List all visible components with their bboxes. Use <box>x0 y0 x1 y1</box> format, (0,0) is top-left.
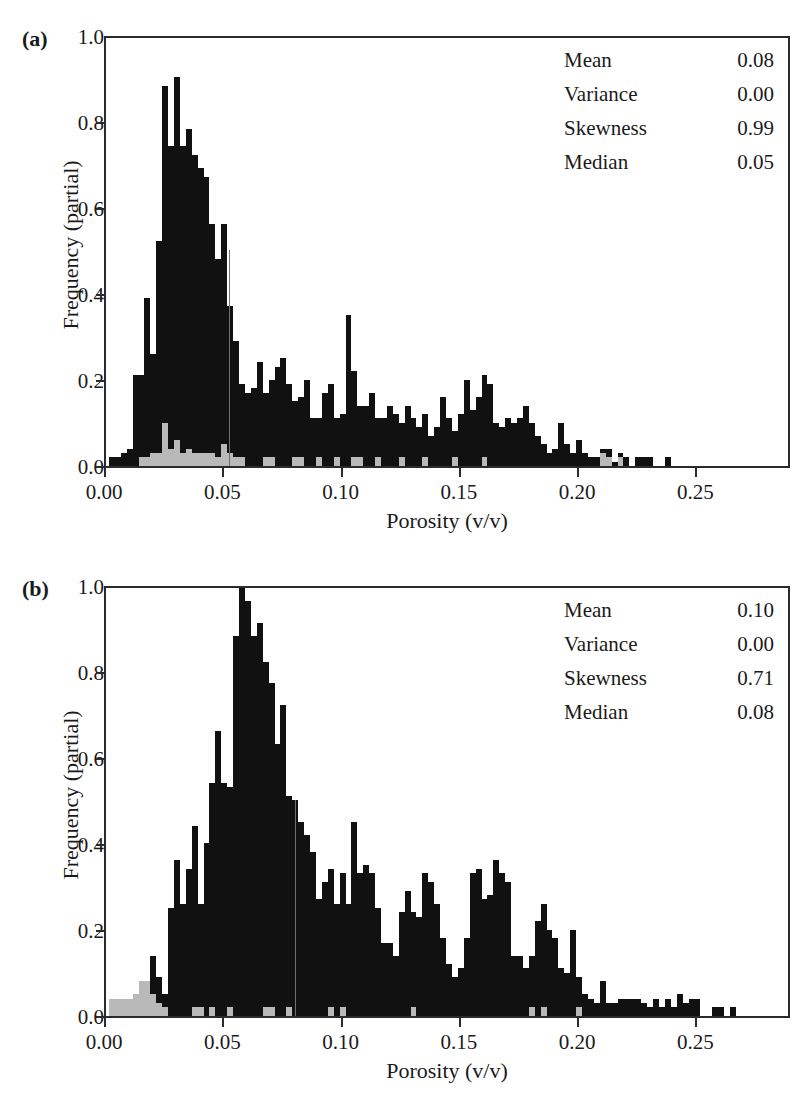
stats-label-variance: Variance <box>564 82 696 107</box>
histogram-bar <box>227 1007 233 1016</box>
x-tick-mark <box>577 1018 579 1027</box>
x-tick-mark <box>577 468 579 477</box>
histogram-bar <box>269 457 275 466</box>
y-tick-mark <box>96 208 104 210</box>
stats-row-mean: Mean 0.08 <box>564 48 774 82</box>
histogram-bar <box>647 457 653 466</box>
y-tick-mark <box>96 1016 104 1018</box>
panel-b-y-axis-title: Frequency (partial) <box>58 585 84 1005</box>
panel-a-y-axis-title: Frequency (partial) <box>58 35 84 455</box>
x-tick-label: 0.00 <box>64 1030 144 1055</box>
stats-row-median: Median 0.08 <box>564 700 774 734</box>
x-tick-label: 0.05 <box>182 1030 262 1055</box>
stats-value-mean: 0.10 <box>696 598 774 623</box>
panel-b-x-axis-title: Porosity (v/v) <box>104 1058 790 1084</box>
histogram-bar <box>618 457 624 466</box>
y-tick-mark <box>96 844 104 846</box>
stats-row-skewness: Skewness 0.71 <box>564 666 774 700</box>
x-tick-mark <box>104 1018 106 1027</box>
histogram-bar <box>334 457 340 466</box>
stats-label-skewness: Skewness <box>564 666 696 691</box>
stats-value-median: 0.05 <box>696 150 774 175</box>
x-tick-mark <box>341 468 343 477</box>
y-tick-mark <box>96 758 104 760</box>
panel-b: (b) 1.0 0.8 0.6 0.4 0.2 0.0 0.000.050.10… <box>0 550 812 1090</box>
histogram-bar <box>606 457 612 466</box>
x-tick-label: 0.25 <box>655 480 735 505</box>
stats-row-skewness: Skewness 0.99 <box>564 116 774 150</box>
stats-value-variance: 0.00 <box>696 632 774 657</box>
median-marker-line <box>295 800 296 1016</box>
histogram-bar <box>730 1007 736 1016</box>
stats-label-variance: Variance <box>564 632 696 657</box>
median-marker-line <box>229 250 230 466</box>
panel-b-stats-box: Mean 0.10 Variance 0.00 Skewness 0.71 Me… <box>564 598 774 734</box>
histogram-bar <box>316 457 322 466</box>
histogram-bar <box>482 457 488 466</box>
x-tick-mark <box>104 468 106 477</box>
x-tick-mark <box>222 468 224 477</box>
x-tick-mark <box>459 468 461 477</box>
stats-label-median: Median <box>564 150 696 175</box>
x-tick-label: 0.25 <box>655 1030 735 1055</box>
panel-a: (a) 1.0 0.8 0.6 0.4 0.2 0.0 0.000.050.10… <box>0 0 812 540</box>
x-tick-label: 0.20 <box>537 480 617 505</box>
x-tick-mark <box>341 1018 343 1027</box>
x-tick-label: 0.05 <box>182 480 262 505</box>
stats-value-variance: 0.00 <box>696 82 774 107</box>
panel-a-stats-box: Mean 0.08 Variance 0.00 Skewness 0.99 Me… <box>564 48 774 184</box>
histogram-bar <box>665 457 671 466</box>
stats-label-skewness: Skewness <box>564 116 696 141</box>
histogram-bar <box>357 457 363 466</box>
histogram-bar <box>399 457 405 466</box>
x-tick-label: 0.15 <box>419 1030 499 1055</box>
stats-value-skewness: 0.71 <box>696 666 774 691</box>
histogram-bar <box>162 1007 168 1016</box>
y-tick-mark <box>96 122 104 124</box>
histogram-bar <box>529 1007 535 1016</box>
x-tick-label: 0.00 <box>64 480 144 505</box>
stats-row-variance: Variance 0.00 <box>564 632 774 666</box>
histogram-bar <box>422 457 428 466</box>
y-tick-mark <box>96 294 104 296</box>
stats-row-variance: Variance 0.00 <box>564 82 774 116</box>
stats-label-median: Median <box>564 700 696 725</box>
y-tick-mark <box>96 930 104 932</box>
histogram-bar <box>452 457 458 466</box>
histogram-bar <box>576 1007 582 1016</box>
panel-a-y-axis: 1.0 0.8 0.6 0.4 0.2 0.0 <box>0 0 104 540</box>
histogram-bar <box>269 1007 275 1016</box>
panel-b-y-axis: 1.0 0.8 0.6 0.4 0.2 0.0 <box>0 550 104 1090</box>
histogram-bar <box>375 457 381 466</box>
stats-value-skewness: 0.99 <box>696 116 774 141</box>
x-tick-mark <box>695 468 697 477</box>
histogram-bar <box>411 1007 417 1016</box>
histogram-bar <box>541 1007 547 1016</box>
x-tick-mark <box>222 1018 224 1027</box>
histogram-bar <box>718 1007 724 1016</box>
y-tick-mark <box>96 672 104 674</box>
x-tick-mark <box>459 1018 461 1027</box>
histogram-bar <box>209 1007 215 1016</box>
x-tick-label: 0.15 <box>419 480 499 505</box>
x-tick-mark <box>695 1018 697 1027</box>
histogram-bar <box>298 457 304 466</box>
histogram-bar <box>239 457 245 466</box>
x-tick-label: 0.10 <box>301 1030 381 1055</box>
histogram-bar <box>340 1007 346 1016</box>
panel-a-x-axis-title: Porosity (v/v) <box>104 508 790 534</box>
x-tick-label: 0.20 <box>537 1030 617 1055</box>
histogram-bar <box>623 457 629 466</box>
porosity-histograms-figure: (a) 1.0 0.8 0.6 0.4 0.2 0.0 0.000.050.10… <box>0 0 812 1115</box>
stats-row-mean: Mean 0.10 <box>564 598 774 632</box>
y-tick-mark <box>96 380 104 382</box>
histogram-bar <box>694 999 700 1016</box>
stats-value-median: 0.08 <box>696 700 774 725</box>
stats-row-median: Median 0.05 <box>564 150 774 184</box>
stats-label-mean: Mean <box>564 598 696 623</box>
y-tick-mark <box>96 466 104 468</box>
histogram-bar <box>198 1007 204 1016</box>
stats-value-mean: 0.08 <box>696 48 774 73</box>
stats-label-mean: Mean <box>564 48 696 73</box>
histogram-bar <box>286 1007 292 1016</box>
